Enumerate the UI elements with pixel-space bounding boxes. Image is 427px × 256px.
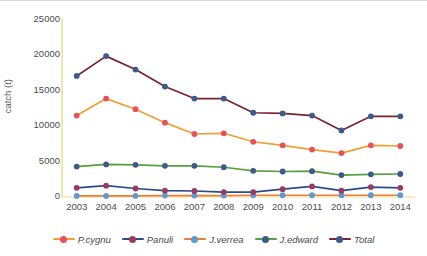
data-point (368, 171, 374, 177)
data-point (74, 113, 80, 119)
data-point (250, 168, 256, 174)
series-total (74, 53, 403, 133)
data-point (250, 189, 256, 195)
legend-marker-dot (191, 236, 198, 243)
legend-item-p-cygnu[interactable]: P.cygnu (53, 234, 111, 245)
data-point (221, 164, 227, 170)
series-j-edward (74, 162, 403, 178)
plot-area (0, 1, 427, 256)
series-line (77, 195, 401, 196)
data-point (74, 185, 80, 191)
data-point (162, 188, 168, 194)
data-point (162, 193, 168, 199)
legend-label: Total (354, 234, 374, 245)
data-point (191, 163, 197, 169)
legend-label: J.verrea (209, 234, 243, 245)
data-point (191, 96, 197, 102)
data-point (397, 185, 403, 191)
data-point (221, 189, 227, 195)
legend-marker-dot (262, 236, 269, 243)
data-point (397, 192, 403, 198)
data-point (309, 168, 315, 174)
data-point (103, 162, 109, 168)
data-point (309, 113, 315, 119)
legend-item-j-edward[interactable]: J.edward (255, 234, 319, 245)
data-point (368, 142, 374, 148)
data-point (368, 192, 374, 198)
data-point (74, 164, 80, 170)
series-line (77, 56, 401, 130)
series-panuli (74, 183, 403, 195)
chart-legend: P.cygnuPanuliJ.verreaJ.edwardTotal (0, 229, 427, 249)
legend-marker-dot (336, 236, 343, 243)
data-point (162, 120, 168, 126)
data-point (191, 188, 197, 194)
data-point (368, 184, 374, 190)
data-point (221, 130, 227, 136)
legend-item-panuli[interactable]: Panuli (122, 234, 173, 245)
data-point (280, 186, 286, 192)
data-point (103, 193, 109, 199)
legend-swatch-icon (122, 234, 144, 244)
data-point (397, 171, 403, 177)
data-point (191, 131, 197, 137)
legend-label: P.cygnu (78, 234, 111, 245)
data-point (397, 143, 403, 149)
data-point (309, 147, 315, 153)
data-point (339, 128, 345, 134)
data-point (397, 113, 403, 119)
data-point (250, 139, 256, 145)
data-point (133, 186, 139, 192)
line-chart-figure: catch (t) 0500010000150002000025000 2003… (0, 0, 427, 256)
data-point (339, 188, 345, 194)
data-point (339, 172, 345, 178)
data-point (368, 113, 374, 119)
legend-swatch-icon (329, 234, 351, 244)
legend-item-j-verrea[interactable]: J.verrea (184, 234, 243, 245)
chart-canvas (0, 1, 427, 256)
legend-swatch-icon (184, 234, 206, 244)
data-point (133, 106, 139, 112)
series-j-verrea (74, 192, 403, 199)
data-point (103, 96, 109, 102)
data-point (280, 169, 286, 175)
legend-swatch-icon (255, 234, 277, 244)
data-point (280, 142, 286, 148)
data-point (74, 73, 80, 79)
data-point (162, 84, 168, 90)
data-point (250, 110, 256, 116)
data-point (221, 96, 227, 102)
series-line (77, 186, 401, 192)
legend-item-total[interactable]: Total (329, 234, 374, 245)
data-point (339, 150, 345, 156)
data-point (103, 53, 109, 59)
data-point (133, 162, 139, 168)
x-tick-label: 2014 (383, 201, 417, 213)
data-point (280, 111, 286, 117)
data-point (133, 67, 139, 73)
legend-swatch-icon (53, 234, 75, 244)
legend-label: Panuli (147, 234, 173, 245)
data-point (309, 183, 315, 189)
legend-label: J.edward (280, 234, 319, 245)
data-point (309, 192, 315, 198)
series-line (77, 164, 401, 175)
data-point (280, 192, 286, 198)
x-axis-tick-labels: 2003200420052006200720082009201020112012… (0, 201, 427, 217)
legend-marker-dot (129, 236, 136, 243)
data-point (74, 193, 80, 199)
data-point (103, 183, 109, 189)
legend-marker-dot (60, 236, 67, 243)
data-point (133, 193, 139, 199)
data-point (162, 163, 168, 169)
